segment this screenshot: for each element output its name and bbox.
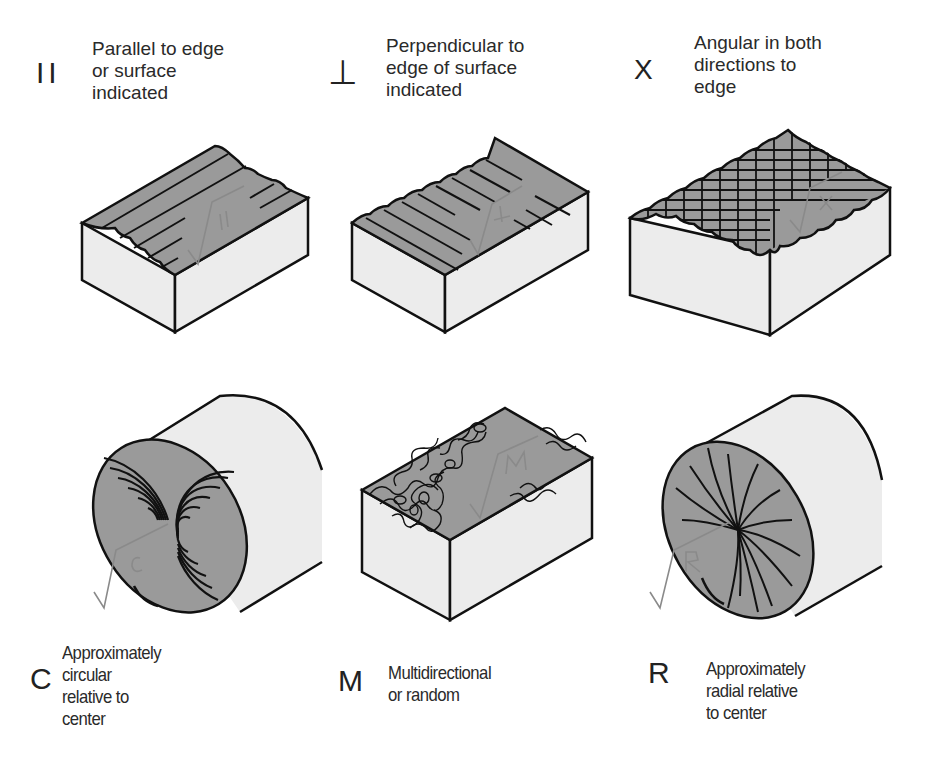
circular-lay-illustration bbox=[60, 380, 330, 630]
angular-lay-illustration bbox=[620, 110, 910, 340]
multidirectional-symbol: M bbox=[338, 664, 363, 698]
angular-symbol: X bbox=[634, 54, 653, 86]
perpendicular-symbol: ⊥ bbox=[328, 52, 358, 92]
multidirectional-lay-illustration bbox=[340, 400, 610, 630]
perpendicular-description: Perpendicular to edge of surface indicat… bbox=[386, 35, 524, 101]
multidirectional-description: Multidirectional or random bbox=[388, 662, 491, 706]
circular-description: Approximately circular relative to cente… bbox=[62, 642, 161, 730]
radial-description: Approximately radial relative to center bbox=[706, 658, 805, 724]
parallel-description: Parallel to edge or surface indicated bbox=[92, 38, 224, 104]
parallel-symbol: II bbox=[36, 56, 61, 90]
parallel-lay-illustration bbox=[60, 110, 330, 340]
radial-symbol: R bbox=[648, 656, 670, 690]
perpendicular-lay-illustration bbox=[330, 110, 600, 340]
angular-description: Angular in both directions to edge bbox=[694, 32, 822, 98]
radial-lay-illustration bbox=[620, 380, 890, 630]
circular-symbol: C bbox=[30, 662, 52, 696]
